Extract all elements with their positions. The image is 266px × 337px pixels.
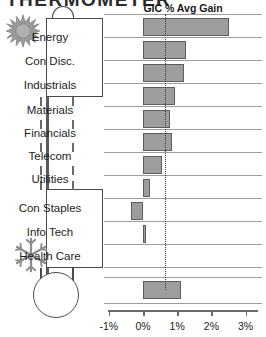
gridline	[104, 129, 262, 130]
bar-industrials	[143, 64, 184, 82]
x-tick	[211, 310, 213, 316]
sector-label-materials: Materials	[0, 104, 100, 116]
thermometer-bulb	[33, 272, 79, 318]
bar-health-care	[143, 225, 146, 243]
bar-utilities	[143, 156, 162, 174]
bar-financials	[143, 110, 170, 128]
sector-label-utilities: Utilities	[0, 173, 100, 185]
gridline	[104, 221, 262, 222]
gridline	[104, 60, 262, 61]
gridline	[104, 83, 262, 84]
bar-total	[143, 281, 181, 299]
gridline	[104, 152, 262, 153]
gridline	[104, 303, 262, 304]
gridline	[104, 198, 262, 199]
bar-energy	[143, 18, 229, 36]
x-tick-label: 1%	[170, 320, 185, 332]
gridline	[104, 244, 262, 245]
x-tick	[109, 310, 111, 316]
bar-materials	[143, 87, 175, 105]
chart-title: GIC % Avg Gain	[100, 2, 266, 14]
gridline	[104, 106, 262, 107]
sector-label-health-care: Health Care	[0, 250, 100, 262]
x-tick-label: 3%	[238, 320, 253, 332]
gridline	[104, 267, 262, 268]
sector-label-telecom: Telecom	[0, 150, 100, 162]
x-tick-label: 2%	[204, 320, 219, 332]
gridline	[104, 14, 262, 15]
x-tick-label: 0%	[135, 320, 150, 332]
sector-label-energy: Energy	[0, 31, 100, 43]
sector-label-financials: Financials	[0, 127, 100, 139]
x-tick	[246, 310, 248, 316]
x-tick	[177, 310, 179, 316]
gridline	[104, 277, 262, 278]
sector-label-con-disc: Con Disc.	[0, 55, 100, 67]
x-tick-label: -1%	[99, 320, 118, 332]
thermometer-diagram: Energy Con Disc. Industrials Materials F…	[0, 0, 100, 337]
bar-con-staples	[143, 179, 150, 197]
gridline	[104, 37, 262, 38]
bar-telecom	[143, 133, 172, 151]
sector-label-info-tech: Info Tech	[0, 226, 100, 238]
reference-line	[165, 14, 166, 290]
sector-label-con-staples: Con Staples	[0, 202, 100, 214]
x-axis	[108, 310, 258, 312]
bar-chart: GIC % Avg Gain -1%0%1%2%3%	[100, 0, 266, 337]
bar-info-tech	[131, 202, 143, 220]
sector-label-industrials: Industrials	[0, 79, 100, 91]
x-tick	[143, 310, 145, 316]
gridline	[104, 175, 262, 176]
